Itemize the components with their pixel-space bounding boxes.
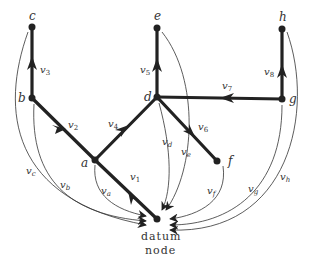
- label-b: b: [18, 91, 26, 105]
- node-a: [92, 157, 99, 164]
- label-vh: vh: [280, 171, 290, 184]
- label-f: f: [227, 154, 235, 168]
- node-b: [29, 95, 36, 102]
- tree-graph-diagram: c b a d e f g h datum node v1 v2 v3 v4 v…: [0, 0, 311, 262]
- label-d: d: [144, 90, 152, 104]
- node-d: [154, 94, 161, 101]
- label-vc: vc: [26, 165, 36, 178]
- label-g: g: [289, 92, 297, 106]
- node-e: [154, 25, 161, 32]
- label-vd: vd: [162, 136, 173, 149]
- label-v8: v8: [264, 66, 274, 79]
- arrow-v1-icon: [128, 191, 139, 205]
- label-ve: ve: [181, 146, 191, 159]
- node-f: [214, 158, 221, 165]
- arc-vb: [34, 104, 146, 221]
- label-c: c: [29, 9, 36, 23]
- node-g: [279, 96, 286, 103]
- arc-ve: [162, 32, 189, 210]
- node-voltage-labels: vc vb va vd ve vf vg vh: [26, 136, 290, 198]
- label-v5: v5: [140, 64, 150, 77]
- label-v2: v2: [68, 119, 78, 132]
- label-v4: v4: [108, 118, 119, 131]
- label-v7: v7: [222, 80, 232, 93]
- label-v6: v6: [198, 121, 209, 134]
- label-va: va: [101, 185, 111, 198]
- label-node: node: [145, 244, 176, 257]
- node-h: [279, 26, 286, 33]
- label-vg: vg: [248, 183, 259, 196]
- arc-vd: [159, 103, 169, 210]
- label-v1: v1: [130, 171, 140, 184]
- label-v3: v3: [40, 64, 50, 77]
- node-datum: [154, 216, 161, 223]
- label-h: h: [279, 10, 287, 24]
- label-a: a: [81, 156, 88, 170]
- label-vf: vf: [207, 185, 217, 198]
- label-datum: datum: [141, 230, 182, 243]
- branch-v7: [157, 97, 282, 99]
- label-e: e: [154, 9, 161, 23]
- node-c: [29, 24, 36, 31]
- arc-vf: [170, 166, 224, 219]
- arc-vg: [170, 105, 282, 225]
